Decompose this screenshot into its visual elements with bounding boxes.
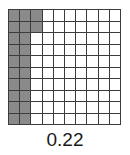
grid-cell (110, 114, 121, 126)
grid-cell (76, 56, 87, 68)
grid-cell (110, 33, 121, 45)
grid-cell (54, 33, 65, 45)
grid-cell (110, 56, 121, 68)
grid-cell (110, 68, 121, 80)
grid-cell (87, 45, 98, 57)
grid-cell (65, 114, 76, 126)
grid-cell (76, 91, 87, 103)
grid-cell (76, 45, 87, 57)
grid-cell (43, 45, 54, 57)
grid-cell (65, 10, 76, 22)
grid-cell (20, 79, 31, 91)
grid-cell (31, 114, 42, 126)
grid-cell (43, 56, 54, 68)
grid-cell (110, 102, 121, 114)
hundredths-grid-container (8, 9, 121, 125)
grid-cell (65, 56, 76, 68)
grid-cell (20, 56, 31, 68)
grid-cell (20, 114, 31, 126)
grid-cell (76, 10, 87, 22)
grid-cell (99, 91, 110, 103)
grid-cell (110, 10, 121, 22)
grid-cell (76, 33, 87, 45)
grid-cell (110, 91, 121, 103)
grid-cell (9, 45, 20, 57)
grid-cell (65, 79, 76, 91)
grid-cell (31, 91, 42, 103)
grid-cell (43, 22, 54, 34)
grid-cell (20, 102, 31, 114)
grid-cell (99, 45, 110, 57)
grid-cell (31, 79, 42, 91)
grid-cell (20, 91, 31, 103)
grid-cell (54, 79, 65, 91)
grid-cell (65, 22, 76, 34)
grid-cell (99, 102, 110, 114)
grid-cell (76, 102, 87, 114)
grid-cell (87, 22, 98, 34)
grid-cell (9, 79, 20, 91)
decimal-value-label: 0.22 (0, 128, 130, 152)
grid-cell (54, 45, 65, 57)
grid-cell (76, 22, 87, 34)
grid-cell (31, 102, 42, 114)
grid-cell (9, 10, 20, 22)
grid-cell (31, 33, 42, 45)
grid-cell (20, 22, 31, 34)
grid-cell (76, 79, 87, 91)
grid-cell (54, 91, 65, 103)
grid-cell (65, 45, 76, 57)
grid-cell (43, 33, 54, 45)
grid-cell (87, 10, 98, 22)
grid-cell (65, 91, 76, 103)
grid-cell (54, 10, 65, 22)
grid-cell (54, 56, 65, 68)
grid-cell (110, 45, 121, 57)
grid-cell (20, 33, 31, 45)
grid-cell (99, 22, 110, 34)
grid-cell (9, 91, 20, 103)
hundredths-grid (8, 9, 121, 125)
grid-cell (99, 79, 110, 91)
grid-cell (43, 114, 54, 126)
grid-cell (31, 45, 42, 57)
grid-cell (99, 114, 110, 126)
grid-cell (87, 68, 98, 80)
grid-cell (99, 68, 110, 80)
grid-cell (54, 22, 65, 34)
grid-cell (65, 102, 76, 114)
grid-cell (9, 114, 20, 126)
grid-cell (43, 91, 54, 103)
grid-cell (43, 102, 54, 114)
grid-cell (87, 56, 98, 68)
grid-cell (31, 22, 42, 34)
grid-cell (20, 10, 31, 22)
grid-cell (43, 79, 54, 91)
grid-cell (87, 114, 98, 126)
grid-cell (54, 68, 65, 80)
grid-cell (9, 33, 20, 45)
grid-cell (54, 102, 65, 114)
grid-cell (99, 56, 110, 68)
grid-cell (9, 22, 20, 34)
grid-cell (9, 56, 20, 68)
grid-cell (65, 33, 76, 45)
grid-cell (54, 114, 65, 126)
grid-cell (87, 33, 98, 45)
grid-cell (43, 10, 54, 22)
grid-cell (65, 68, 76, 80)
grid-cell (31, 10, 42, 22)
grid-cell (43, 68, 54, 80)
grid-cell (110, 79, 121, 91)
grid-cell (31, 68, 42, 80)
grid-cell (87, 91, 98, 103)
grid-cell (20, 68, 31, 80)
grid-cell (76, 114, 87, 126)
grid-cell (99, 33, 110, 45)
grid-cell (76, 68, 87, 80)
grid-cell (87, 102, 98, 114)
grid-cell (87, 79, 98, 91)
decimal-grid-figure: 0.22 (0, 0, 130, 155)
grid-cell (99, 10, 110, 22)
grid-cell (110, 22, 121, 34)
